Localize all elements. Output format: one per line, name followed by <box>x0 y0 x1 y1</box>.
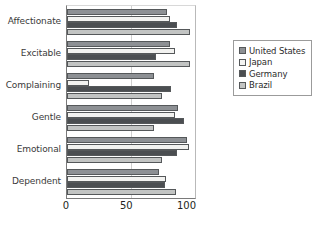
bar <box>67 54 156 60</box>
bar-row <box>67 157 195 163</box>
legend-swatch-icon <box>239 59 246 66</box>
legend-swatch-icon <box>239 47 246 54</box>
bar <box>67 176 166 182</box>
category-label: Complaining <box>0 69 64 101</box>
bar-row <box>67 112 195 118</box>
bar-row <box>67 144 195 150</box>
bar <box>67 41 170 47</box>
category-label: Affectionate <box>0 5 64 37</box>
bar-row <box>67 137 195 143</box>
legend-item-brazil: Brazil <box>239 80 307 91</box>
bar-group <box>67 102 195 134</box>
bar-row <box>67 118 195 124</box>
bar-group <box>67 134 195 166</box>
bar <box>67 189 176 195</box>
bar <box>67 150 177 156</box>
bar <box>67 80 89 86</box>
bar <box>67 157 162 163</box>
bar-group <box>67 166 195 198</box>
bar <box>67 112 175 118</box>
bar <box>67 29 190 35</box>
bar <box>67 22 177 28</box>
legend-label: Japan <box>249 57 272 67</box>
bar-row <box>67 189 195 195</box>
bar <box>67 125 154 131</box>
bar <box>67 144 189 150</box>
bar-chart: Affectionate Excitable Complaining Gentl… <box>0 0 318 227</box>
bar-row <box>67 169 195 175</box>
plot-area <box>66 5 196 199</box>
category-label: Excitable <box>0 37 64 69</box>
bar-row <box>67 9 195 15</box>
legend-item-united-states: United States <box>239 45 307 56</box>
bar-row <box>67 176 195 182</box>
bar <box>67 86 171 92</box>
bar-group <box>67 38 195 70</box>
chart-legend: United States Japan Germany Brazil <box>233 40 312 96</box>
legend-label: Brazil <box>249 80 272 90</box>
bar-row <box>67 54 195 60</box>
bar-row <box>67 105 195 111</box>
bar <box>67 182 165 188</box>
bar <box>67 9 167 15</box>
axis-tick-label: 100 <box>177 200 196 212</box>
legend-label: United States <box>249 46 305 56</box>
axis-tick-label: 50 <box>120 200 133 212</box>
bar-row <box>67 29 195 35</box>
bar <box>67 169 159 175</box>
bar <box>67 61 190 67</box>
bar <box>67 137 187 143</box>
bar <box>67 48 175 54</box>
axis-tick-label: 0 <box>63 200 69 212</box>
bar-group <box>67 6 195 38</box>
bar-row <box>67 80 195 86</box>
bar-row <box>67 125 195 131</box>
bar <box>67 118 184 124</box>
bar-groups <box>67 6 195 198</box>
bar-row <box>67 86 195 92</box>
bar <box>67 73 154 79</box>
legend-swatch-icon <box>239 82 246 89</box>
bar-row <box>67 41 195 47</box>
bar-row <box>67 93 195 99</box>
value-axis: 050100 <box>66 200 195 220</box>
bar-group <box>67 70 195 102</box>
bar <box>67 105 178 111</box>
bar-row <box>67 150 195 156</box>
legend-item-japan: Japan <box>239 57 307 68</box>
legend-swatch-icon <box>239 70 246 77</box>
bar <box>67 93 162 99</box>
category-label: Emotional <box>0 133 64 165</box>
legend-item-germany: Germany <box>239 68 307 79</box>
bar-row <box>67 182 195 188</box>
legend-label: Germany <box>249 69 287 79</box>
bar-row <box>67 61 195 67</box>
category-label: Dependent <box>0 165 64 197</box>
bar-row <box>67 48 195 54</box>
bar-row <box>67 73 195 79</box>
category-label: Gentle <box>0 101 64 133</box>
bar-row <box>67 16 195 22</box>
category-axis-labels: Affectionate Excitable Complaining Gentl… <box>0 5 64 197</box>
bar-row <box>67 22 195 28</box>
bar <box>67 16 170 22</box>
